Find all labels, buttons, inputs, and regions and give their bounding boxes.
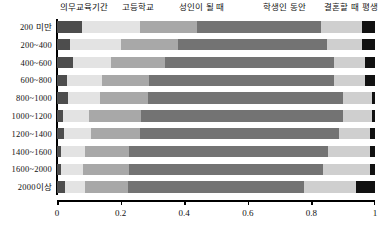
x-axis-tick-4 [311,200,313,205]
bar-row [57,181,375,193]
bar-segment [372,110,375,122]
bar-segment [343,92,372,104]
y-axis-label-6: 1200~1400 [12,129,52,139]
y-axis-label-3: 600~800 [21,75,53,85]
bar-row [57,128,375,140]
bar-segment [64,128,91,140]
bar-segment [57,39,70,51]
bar-segment [149,75,333,87]
bar-segment [165,57,334,69]
bar-segment [89,110,141,122]
bar-segment [334,57,366,69]
bar-segment [197,21,321,33]
bar-segment [68,92,100,104]
bar-segment [327,39,362,51]
bar-segment [83,164,129,176]
x-axis-tick-label-5: 1 [373,208,378,219]
bar-segment [148,92,344,104]
bar-segment [102,75,150,87]
x-axis-tick-label-4: 0.8 [306,208,317,219]
bar-segment [85,181,128,193]
bar-segment [57,21,82,33]
bar-segment [129,164,323,176]
bar-segment [321,21,362,33]
legend-label-1: 고등학교 [122,2,154,13]
y-axis-label-4: 800~1000 [16,93,52,103]
x-axis-tick-label-0: 0 [55,208,60,219]
bar-segment [339,128,370,140]
bar-segment [372,92,375,104]
bar-segment [365,57,375,69]
bar-segment [57,75,67,87]
legend-label-0: 의무교육기간 [60,2,108,13]
bar-segment [82,21,139,33]
bar-segment [304,181,356,193]
bar-segment [57,92,68,104]
bar-segment [334,75,366,87]
y-axis-label-2: 400~600 [21,58,53,68]
bar-segment [67,75,102,87]
bar-segment [140,128,339,140]
y-axis-label-7: 1400~1600 [12,147,52,157]
bar-segment [91,128,140,140]
legend-label-3: 학생인 동안 [263,2,306,13]
bar-segment [63,110,88,122]
chart-legend: 의무교육기간고등학교성인이 될 때학생인 동안결혼할 때평생 [0,0,377,18]
bar-segment [362,21,375,33]
legend-label-2: 성인이 될 때 [179,2,224,13]
bar-segment [57,57,73,69]
bar-segment [57,128,64,140]
x-axis-tick-0 [57,200,59,205]
y-axis-label-5: 1000~1200 [12,111,52,121]
legend-label-5: 평생 [362,2,378,13]
y-axis-label-1: 200~400 [21,40,53,50]
y-axis-label-8: 1600~2000 [12,164,52,174]
x-axis-tick-1 [121,200,123,205]
bar-row [57,92,375,104]
bar-segment [356,181,375,193]
bar-segment [129,146,328,158]
bar-segment [100,92,148,104]
bar-row [57,110,375,122]
bar-segment [343,110,372,122]
bar-segment [111,57,165,69]
x-axis-tick-2 [184,200,186,205]
bar-segment [70,39,120,51]
bar-segment [65,181,85,193]
x-axis-tick-label-1: 0.2 [115,208,126,219]
bar-row [57,75,375,87]
bar-segment [140,21,197,33]
bar-segment [141,110,343,122]
y-axis-label-9: 2000이상 [18,182,52,192]
x-axis-tick-label-2: 0.4 [179,208,190,219]
bar-row [57,39,375,51]
bar-segment [365,75,375,87]
bar-segment [61,146,85,158]
bar-segment [370,164,375,176]
y-axis-labels: 200 미만200~400400~600600~800800~10001000~… [0,18,56,196]
legend-label-4: 결혼할 때 [324,2,359,13]
x-axis-tick-3 [248,200,250,205]
y-axis-label-0: 200 미만 [20,22,52,32]
bar-segment [57,181,65,193]
bar-segment [370,146,375,158]
bar-segment [362,39,375,51]
bar-row [57,57,375,69]
bar-segment [128,181,304,193]
x-axis-tick-label-3: 0.6 [242,208,253,219]
bar-segment [178,39,327,51]
bar-segment [328,146,370,158]
bar-row [57,164,375,176]
bar-segment [73,57,111,69]
bar-segment [370,128,375,140]
bar-segment [323,164,370,176]
bar-segment [121,39,178,51]
bar-row [57,146,375,158]
x-axis: 00.20.40.60.81 [57,200,375,234]
bar-segment [85,146,130,158]
bar-segment [61,164,83,176]
plot-area [57,18,375,196]
bar-row [57,21,375,33]
x-axis-line [57,200,375,202]
